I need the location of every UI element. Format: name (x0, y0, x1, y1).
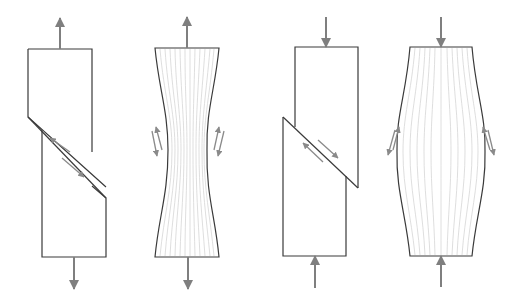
panel-compression-shear-fracture (283, 17, 358, 288)
shear-arrow-right-up-icon (214, 127, 219, 150)
panel-tension-shear-fracture (28, 18, 106, 289)
panel-tension-necking (152, 17, 224, 289)
shear-arrow-right-down-icon (218, 131, 224, 156)
shear-arrow-right-down-icon (488, 130, 494, 155)
shear-arrow-left-down-icon (388, 130, 395, 155)
shear-arrow-left-up-icon (156, 127, 162, 150)
panel-compression-barreling (388, 17, 494, 287)
deformation-diagram: material deformation under axial load (0, 0, 505, 305)
shear-arrow-left-down-icon (152, 131, 157, 156)
